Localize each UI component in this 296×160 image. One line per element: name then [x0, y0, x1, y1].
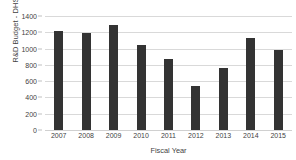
bar-slot: [127, 16, 154, 130]
x-axis-tick-label: 2015: [265, 132, 292, 144]
x-axis-tick-label: 2009: [100, 132, 127, 144]
x-axis-tick-label: 2014: [237, 132, 264, 144]
bar-slot: [45, 16, 72, 130]
bar[interactable]: [274, 50, 283, 130]
x-axis-tick-label: 2008: [72, 132, 99, 144]
y-axis-tick-label: 1200: [21, 29, 37, 36]
bar-slot: [265, 16, 292, 130]
bar-series: [45, 16, 292, 130]
bar[interactable]: [137, 45, 146, 130]
y-axis-tick-mark: [38, 64, 42, 65]
y-axis-tick-mark: [38, 48, 42, 49]
bar-chart: R&D Budget - DHS 02004006008001000120014…: [0, 0, 296, 160]
bar-slot: [72, 16, 99, 130]
y-axis-tick-label: 1400: [21, 13, 37, 20]
bar-slot: [210, 16, 237, 130]
x-axis-tick-label: 2012: [182, 132, 209, 144]
y-axis-tick-label: 400: [25, 94, 37, 101]
bar[interactable]: [164, 59, 173, 130]
y-axis-tick-mark: [38, 113, 42, 114]
x-axis-tick-label: 2010: [127, 132, 154, 144]
bar-slot: [237, 16, 264, 130]
bar[interactable]: [246, 38, 255, 130]
y-axis-tick-mark: [38, 81, 42, 82]
y-axis-tick-label: 600: [25, 78, 37, 85]
bar-slot: [182, 16, 209, 130]
x-axis-tick-labels: 200720082009201020112012201320142015: [45, 132, 292, 144]
y-axis-tick-label: 0: [33, 127, 37, 134]
gridline: [45, 130, 292, 131]
y-axis-tick-label: 200: [25, 110, 37, 117]
x-axis-tick-label: 2007: [45, 132, 72, 144]
y-axis-tick-mark: [38, 97, 42, 98]
bar[interactable]: [82, 33, 91, 130]
bar[interactable]: [191, 86, 200, 130]
x-axis-tick-label: 2011: [155, 132, 182, 144]
bar-slot: [100, 16, 127, 130]
plot-area: [45, 16, 292, 130]
bar[interactable]: [54, 31, 63, 130]
y-axis-tick-mark: [38, 32, 42, 33]
y-axis-tick-label: 1000: [21, 45, 37, 52]
x-axis-title: Fiscal Year: [45, 146, 292, 155]
y-axis-tick-labels: 0200400600800100012001400: [0, 16, 42, 130]
y-axis-tick-mark: [38, 130, 42, 131]
y-axis-tick-mark: [38, 16, 42, 17]
bar[interactable]: [219, 68, 228, 130]
x-axis-tick-label: 2013: [210, 132, 237, 144]
y-axis-tick-label: 800: [25, 61, 37, 68]
bar-slot: [155, 16, 182, 130]
bar[interactable]: [109, 25, 118, 130]
